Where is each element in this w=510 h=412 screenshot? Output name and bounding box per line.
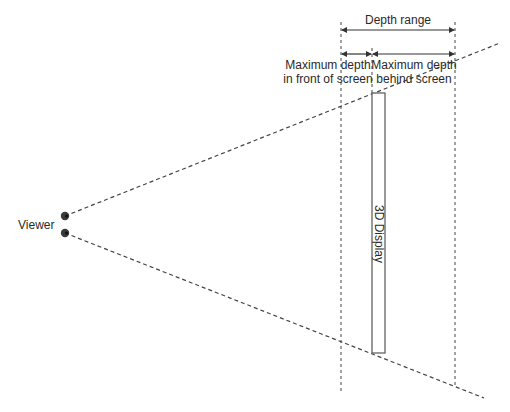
viewer-label: Viewer: [18, 218, 54, 233]
right-eye-icon: [61, 229, 69, 237]
depth-diagram: Viewer Depth range Maximum depth in fron…: [0, 0, 510, 412]
front-depth-label-line2: in front of screen: [283, 72, 372, 87]
display-label: 3D Display: [372, 205, 386, 263]
left-eye-icon: [61, 212, 69, 220]
depth-range-label: Depth range: [365, 13, 431, 28]
front-depth-label-line1: Maximum depth: [285, 58, 370, 73]
behind-depth-label-line1: Maximum depth: [371, 58, 456, 73]
lower-sight-ray: [65, 233, 484, 398]
behind-depth-label-line2: behind screen: [376, 72, 451, 87]
